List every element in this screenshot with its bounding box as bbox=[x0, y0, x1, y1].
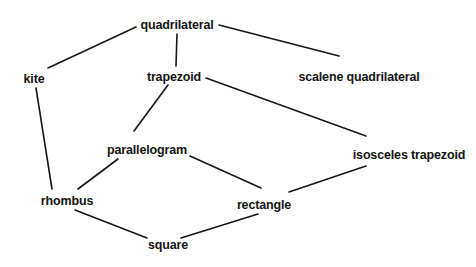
diagram-node-quadrilateral[interactable]: quadrilateral bbox=[140, 19, 213, 32]
diagram-node-isosceles_trapezoid[interactable]: isosceles trapezoid bbox=[353, 149, 465, 162]
diagram-node-trapezoid[interactable]: trapezoid bbox=[147, 71, 201, 84]
diagram-node-parallelogram[interactable]: parallelogram bbox=[107, 144, 187, 157]
diagram-node-square[interactable]: square bbox=[148, 239, 188, 252]
diagram-node-rhombus[interactable]: rhombus bbox=[41, 195, 93, 208]
diagram-node-rectangle[interactable]: rectangle bbox=[237, 199, 291, 212]
diagram-node-kite[interactable]: kite bbox=[24, 73, 45, 86]
quadrilateral-hierarchy-diagram: quadrilateralkitetrapezoidscalene quadri… bbox=[0, 0, 476, 267]
diagram-node-scalene_quadrilateral[interactable]: scalene quadrilateral bbox=[298, 71, 419, 84]
diagram-node-layer: quadrilateralkitetrapezoidscalene quadri… bbox=[0, 0, 476, 267]
